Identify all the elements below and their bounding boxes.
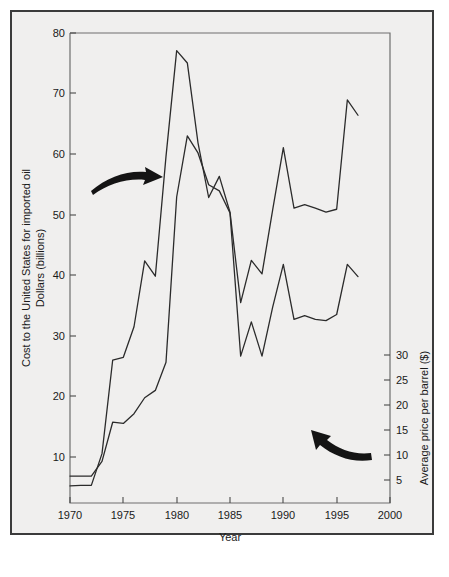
- x-axis-ticks: [70, 497, 390, 503]
- y2-tick-label-15: 15: [396, 424, 408, 436]
- y-tick-label-30: 30: [53, 330, 65, 342]
- plot-frame: [70, 33, 390, 503]
- y2-axis-title: Average price per barrel ($): [418, 351, 430, 485]
- x-tick-label-1975: 1975: [111, 509, 135, 521]
- y2-tick-label-30: 30: [396, 349, 408, 361]
- x-tick-label-1990: 1990: [271, 509, 295, 521]
- x-tick-label-1985: 1985: [218, 509, 242, 521]
- x-tick-label-2000: 2000: [378, 509, 402, 521]
- y2-tick-label-25: 25: [396, 374, 408, 386]
- series-line-cost-imported-oil: [70, 51, 358, 486]
- chart-plot-area: 80 70 60 50 40 30 20 10 30 25 20 15 10 5: [0, 0, 449, 577]
- y2-tick-label-20: 20: [396, 399, 408, 411]
- y-tick-label-20: 20: [53, 390, 65, 402]
- y-axis-left-tick-labels: 80 70 60 50 40 30 20 10: [53, 27, 65, 463]
- y-tick-label-50: 50: [53, 209, 65, 221]
- x-tick-label-1970: 1970: [58, 509, 82, 521]
- annotation-arrow-price: [311, 430, 372, 461]
- y-tick-label-70: 70: [53, 87, 65, 99]
- x-tick-label-1980: 1980: [165, 509, 189, 521]
- x-tick-label-1995: 1995: [325, 509, 349, 521]
- y-axis-title-line2: Dollars (billions): [34, 229, 46, 307]
- y-tick-label-80: 80: [53, 27, 65, 39]
- chart-figure: 80 70 60 50 40 30 20 10 30 25 20 15 10 5: [0, 0, 449, 577]
- x-axis-tick-labels: 1970 1975 1980 1985 1990 1995 2000: [58, 509, 402, 521]
- y2-tick-label-10: 10: [396, 449, 408, 461]
- y-axis-left-ticks: [70, 33, 76, 457]
- y2-tick-label-5: 5: [396, 474, 402, 486]
- y-axis-right-tick-labels: 30 25 20 15 10 5: [396, 349, 408, 486]
- y-tick-label-10: 10: [53, 451, 65, 463]
- y-tick-label-40: 40: [53, 269, 65, 281]
- annotation-arrow-cost: [91, 167, 163, 195]
- y-axis-right-ticks: [384, 355, 390, 480]
- x-axis-title: Year: [219, 531, 242, 543]
- y-tick-label-60: 60: [53, 148, 65, 160]
- y-axis-title-line1: Cost to the United States for imported o…: [20, 169, 32, 367]
